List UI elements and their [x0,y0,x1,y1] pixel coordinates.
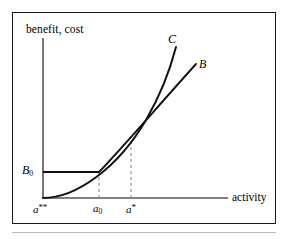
x-tick-a-star-superscript: * [132,202,136,212]
x-tick-label-a-zero: a0 [93,203,102,215]
figure-root: benefit, cost activity C B B0 a** a0 a* [0,0,288,239]
x-tick-label-a-double-star: a** [33,203,47,215]
benefit-floor-label-subscript: 0 [29,169,33,178]
benefit-floor-label: B0 [22,164,33,177]
y-axis-label: benefit, cost [26,24,84,36]
cost-curve-label: C [168,33,176,45]
x-tick-a-zero-subscript: 0 [99,207,103,216]
x-tick-a-double-star-superscript: ** [39,202,47,212]
x-tick-label-a-star: a* [126,203,136,215]
x-axis-label: activity [232,192,267,204]
bottom-separator-rule [12,232,276,233]
benefit-curve-label: B [199,58,206,70]
